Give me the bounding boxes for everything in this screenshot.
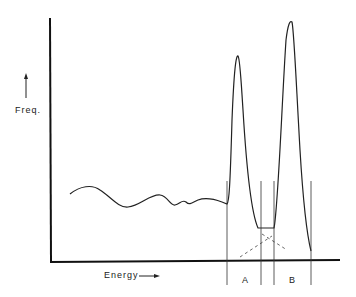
x-axis-label: Energy: [104, 270, 139, 280]
spectrum-diagram: [0, 0, 356, 297]
peak-b-tail: [262, 234, 287, 250]
y-axis-label: Freq.: [15, 105, 41, 115]
region-a-label: A: [242, 275, 249, 285]
region-b-label: B: [289, 275, 296, 285]
peak-a-tail: [240, 236, 272, 257]
x-axis: [50, 260, 340, 262]
spectrum-curve: [70, 22, 311, 251]
y-axis: [50, 18, 51, 262]
